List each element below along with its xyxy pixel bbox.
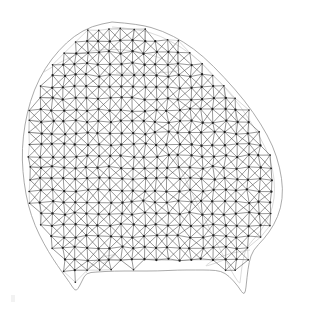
mesh-node bbox=[98, 51, 100, 53]
mesh-node bbox=[179, 87, 181, 89]
mesh-node bbox=[248, 202, 250, 204]
mesh-node bbox=[64, 133, 66, 135]
mesh-node bbox=[142, 200, 144, 202]
mesh-node bbox=[87, 52, 89, 54]
mesh-node bbox=[51, 133, 53, 135]
mesh-node bbox=[247, 247, 249, 249]
mesh-node bbox=[225, 235, 227, 237]
mesh-node bbox=[201, 73, 203, 75]
mesh-node bbox=[235, 236, 237, 238]
mesh-node bbox=[121, 74, 123, 76]
mesh-node bbox=[223, 167, 225, 169]
mesh-node bbox=[50, 235, 52, 237]
mesh-node bbox=[179, 109, 181, 111]
mesh-node bbox=[156, 98, 158, 100]
mesh-node bbox=[167, 75, 169, 77]
mesh-node bbox=[52, 156, 54, 158]
mesh-node bbox=[155, 259, 157, 261]
mesh-node bbox=[87, 189, 89, 191]
mesh-node bbox=[110, 235, 112, 237]
mesh-node bbox=[224, 177, 226, 179]
mesh-node bbox=[28, 110, 30, 112]
mesh-node bbox=[224, 131, 226, 133]
mesh-node bbox=[167, 258, 169, 260]
mesh-node bbox=[224, 258, 226, 260]
mesh-node bbox=[189, 189, 191, 191]
figure-corner-mark bbox=[11, 295, 15, 302]
mesh-node bbox=[179, 178, 181, 180]
mesh-node bbox=[74, 143, 76, 145]
mesh-node bbox=[167, 51, 169, 53]
mesh-node bbox=[235, 200, 237, 202]
mesh-node bbox=[29, 144, 31, 146]
mesh-node bbox=[73, 63, 75, 65]
mesh-node bbox=[167, 86, 169, 88]
mesh-node bbox=[143, 74, 145, 76]
mesh-node bbox=[247, 259, 249, 261]
mesh-node bbox=[189, 52, 191, 54]
mesh-node bbox=[236, 143, 238, 145]
mesh-node bbox=[270, 168, 272, 170]
mesh-node bbox=[74, 178, 76, 180]
mesh-node bbox=[28, 131, 30, 133]
mesh-node bbox=[154, 190, 156, 192]
mesh-node bbox=[131, 258, 133, 260]
mesh-node bbox=[74, 211, 76, 213]
mesh-node bbox=[225, 97, 227, 99]
mesh-node bbox=[74, 201, 76, 203]
mesh-node bbox=[248, 154, 250, 156]
mesh-node bbox=[85, 97, 87, 99]
mesh-node bbox=[248, 121, 250, 123]
mesh-node bbox=[155, 74, 157, 76]
mesh-node bbox=[86, 201, 88, 203]
mesh-node bbox=[144, 246, 146, 248]
mesh-node bbox=[155, 223, 157, 225]
mesh-node bbox=[52, 200, 54, 202]
mesh-node bbox=[50, 177, 52, 179]
mesh-node bbox=[39, 201, 41, 203]
mesh-node bbox=[97, 213, 99, 215]
mesh-node bbox=[258, 131, 260, 133]
mesh-node bbox=[96, 167, 98, 169]
mesh-node bbox=[109, 40, 111, 42]
mesh-node bbox=[132, 178, 134, 180]
mesh-node bbox=[235, 258, 237, 260]
mesh-node bbox=[168, 131, 170, 133]
mesh-node bbox=[168, 122, 170, 124]
mesh-node bbox=[166, 246, 168, 248]
mesh-node bbox=[119, 39, 121, 41]
mesh-node bbox=[189, 108, 191, 110]
mesh-node bbox=[52, 97, 54, 99]
mesh-node bbox=[166, 201, 168, 203]
mesh-node bbox=[64, 75, 66, 77]
mesh-node bbox=[188, 211, 190, 213]
mesh-node bbox=[213, 97, 215, 99]
mesh-node bbox=[248, 143, 250, 145]
mesh-node bbox=[75, 156, 77, 158]
mesh-node bbox=[108, 247, 110, 249]
mesh-node bbox=[178, 190, 180, 192]
mesh-node bbox=[109, 97, 111, 99]
mesh-node bbox=[260, 236, 262, 238]
mesh-node bbox=[131, 120, 133, 122]
mesh-node bbox=[119, 28, 121, 30]
mesh-node bbox=[144, 211, 146, 213]
mesh-node bbox=[86, 269, 88, 271]
mesh-node bbox=[40, 85, 42, 87]
mesh-node bbox=[86, 110, 88, 112]
mesh-node bbox=[64, 214, 66, 216]
mesh-node bbox=[108, 213, 110, 215]
mesh-node bbox=[177, 154, 179, 156]
mesh-node bbox=[120, 236, 122, 238]
mesh-node bbox=[86, 62, 88, 64]
mesh-node bbox=[74, 246, 76, 248]
mesh-node bbox=[188, 131, 190, 133]
mesh-node bbox=[74, 73, 76, 75]
mesh-node bbox=[167, 224, 169, 226]
mesh-node bbox=[63, 166, 65, 168]
mesh-node bbox=[27, 156, 29, 158]
mesh-node bbox=[109, 189, 111, 191]
mesh-node bbox=[144, 133, 146, 135]
mesh-node bbox=[87, 144, 89, 146]
mesh-node bbox=[202, 122, 204, 124]
